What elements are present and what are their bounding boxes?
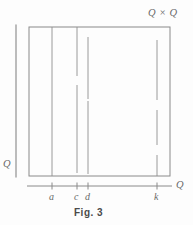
tick-label-k: k	[154, 192, 158, 202]
horizontal-axis-label-q: Q	[176, 180, 184, 191]
figure-3-container: Q × Q Q Q a c d k Fig. 3	[0, 0, 193, 225]
product-square-box	[29, 27, 170, 176]
figure-drawing	[0, 0, 193, 225]
vertical-axis-label-q: Q	[3, 159, 11, 170]
corner-label-q-times-q: Q × Q	[148, 8, 178, 19]
figure-caption: Fig. 3	[74, 207, 103, 218]
tick-label-a: a	[49, 192, 54, 202]
tick-label-d: d	[85, 192, 90, 202]
tick-label-c: c	[74, 192, 78, 202]
